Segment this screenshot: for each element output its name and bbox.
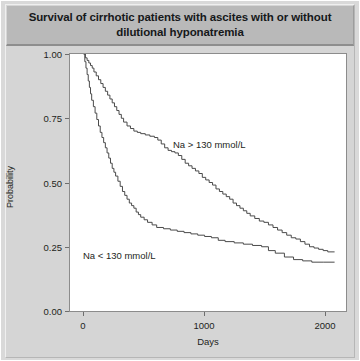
- annotation-na-below-130: Na < 130 mmol/L: [83, 250, 156, 261]
- y-tick-label-0.25: 0.25: [44, 242, 63, 253]
- x-axis-label: Days: [197, 336, 219, 347]
- x-tick-mark-1000: [204, 312, 205, 316]
- page-title: Survival of cirrhotic patients with asci…: [7, 10, 353, 40]
- figure-container: Survival of cirrhotic patients with asci…: [0, 0, 360, 361]
- x-tick-label-0: 0: [80, 320, 85, 331]
- curve-na-above-130: [84, 54, 335, 252]
- y-tick-label-1.00: 1.00: [44, 49, 63, 60]
- y-tick-label-0.00: 0.00: [44, 306, 63, 317]
- survival-curves-plot: [70, 54, 346, 311]
- y-axis-label: Probability: [5, 166, 15, 208]
- plot-frame: Na > 130 mmol/L Na < 130 mmol/L: [69, 53, 347, 312]
- chart-area: Probability 1.00 0.75 0.50 0.25 0.00 0 1…: [6, 48, 354, 356]
- x-tick-label-2000: 2000: [314, 320, 335, 331]
- annotation-na-above-130: Na > 130 mmol/L: [173, 139, 246, 150]
- curve-na-below-130: [84, 54, 335, 262]
- y-tick-label-0.50: 0.50: [44, 178, 63, 189]
- x-tick-label-1000: 1000: [193, 320, 214, 331]
- title-bar: Survival of cirrhotic patients with asci…: [6, 5, 354, 46]
- x-tick-mark-2000: [325, 312, 326, 316]
- y-tick-label-0.75: 0.75: [44, 113, 63, 124]
- x-tick-mark-0: [83, 312, 84, 316]
